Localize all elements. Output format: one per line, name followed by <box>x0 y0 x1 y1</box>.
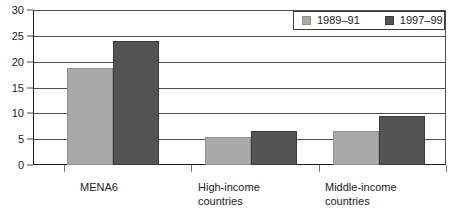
legend: 1989–91 1997–99 <box>293 11 445 30</box>
legend-swatch-icon-1997-99 <box>385 16 394 25</box>
y-tick-label-5: 5 <box>18 134 24 145</box>
bar-chart: 30 25 20 15 10 5 0 <box>0 0 452 216</box>
gridline-5 <box>34 139 445 140</box>
legend-label-1989-91: 1989–91 <box>317 15 360 26</box>
y-tick-label-15: 15 <box>12 82 24 93</box>
legend-swatch-icon-1989-91 <box>302 16 311 25</box>
plot-area <box>33 10 446 165</box>
x-tick-label-high-income: High-income countries <box>198 181 316 208</box>
gridline-20 <box>34 62 445 63</box>
legend-item-1989-91: 1989–91 <box>302 12 360 29</box>
x-tick-mark-4 <box>446 165 447 172</box>
legend-label-1997-99: 1997–99 <box>400 15 443 26</box>
y-tick-label-25: 25 <box>12 30 24 41</box>
gridline-15 <box>34 88 445 89</box>
y-axis: 30 25 20 15 10 5 0 <box>0 0 33 175</box>
x-tick-label-mena6: MENA6 <box>80 181 190 195</box>
y-tick-label-30: 30 <box>12 5 24 16</box>
gridline-10 <box>34 113 445 114</box>
x-tick-label-middle-income: Middle-income countries <box>325 181 450 208</box>
x-tick-mark-1 <box>64 165 65 172</box>
x-axis: MENA6 High-income countries Middle-incom… <box>0 176 452 216</box>
x-tick-mark-2 <box>191 165 192 172</box>
y-tick-label-20: 20 <box>12 56 24 67</box>
y-tick-label-10: 10 <box>12 108 24 119</box>
gridline-25 <box>34 36 445 37</box>
x-tick-mark-3 <box>319 165 320 172</box>
legend-item-1997-99: 1997–99 <box>385 12 443 29</box>
y-tick-label-0: 0 <box>18 160 24 171</box>
